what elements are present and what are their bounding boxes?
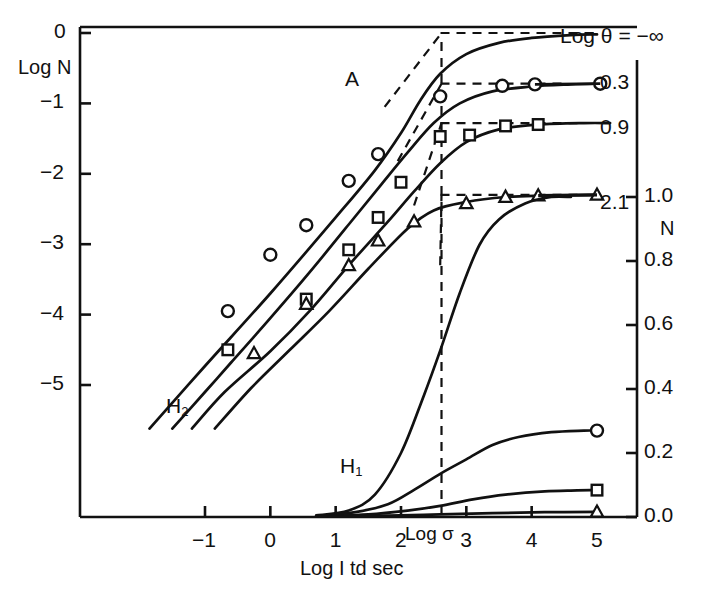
data-point-square-2-4 [396,177,407,188]
left-tick-label-4: −4 [40,302,64,323]
x-tick-label-0: −1 [192,529,216,550]
data-point-square-6-0 [592,485,603,496]
theta-label-2: 0.9 [600,116,629,137]
theta-legend-text: Log θ = −∞ [560,24,664,47]
theta-label-3: 2.1 [600,191,629,212]
curve-label-h2: H2 [166,395,188,418]
x-tick-label-4: 3 [460,529,472,550]
data-point-square-2-8 [533,119,544,130]
connector-03 [535,84,600,85]
curve-label-a: A [345,68,359,89]
data-point-triangle-3-6 [499,191,511,202]
data-point-triangle-7-0 [591,505,603,516]
x-tick-label-2: 1 [330,529,342,550]
curve-label-h1: H1 [340,455,362,478]
left-tick-label-2: −2 [40,161,64,182]
curve-1 [172,84,600,429]
data-point-circle-1-4 [372,148,384,160]
x-tick-label-3: 2 [395,529,407,550]
x-tick-label-6: 5 [591,529,603,550]
data-point-square-2-5 [435,131,446,142]
data-point-circle-1-2 [300,219,312,231]
right-tick-label-4: 0.2 [644,440,673,461]
data-point-triangle-3-0 [248,347,260,358]
data-point-square-2-2 [343,245,354,256]
left-tick-label-1: −1 [40,90,64,111]
data-point-square-2-6 [464,130,475,141]
data-point-triangle-3-5 [460,197,472,208]
dashed-knee-0 [385,33,442,107]
right-tick-label-0: 1.0 [644,184,673,205]
h2-subscript: 2 [181,404,188,419]
left-tick-label-3: −3 [40,231,64,252]
h2-letter: H [166,394,181,417]
theta-label-1: 0.3 [600,71,629,92]
right-tick-label-2: 0.6 [644,312,673,333]
h1-letter: H [340,454,355,477]
x-tick-label-5: 4 [526,529,538,550]
data-point-square-2-7 [500,121,511,132]
left-axis-title: Log N [18,57,71,77]
h1-subscript: 1 [355,464,362,479]
curve-0 [150,34,598,428]
data-point-square-2-3 [373,212,384,223]
theta-legend-infinity: Log θ = −∞ [560,25,664,46]
data-point-square-2-0 [223,345,234,356]
data-point-circle-5-0 [591,425,603,437]
x-axis-title: Log I td sec [300,558,403,578]
left-tick-label-0: 0 [54,20,66,41]
data-point-circle-1-1 [264,249,276,261]
right-tick-label-5: 0.0 [644,504,673,525]
data-point-triangle-3-4 [408,215,420,226]
x-tick-label-1: 0 [264,529,276,550]
data-point-circle-1-0 [222,305,234,317]
connector-21 [538,195,597,196]
sigma-annotation: Log σ [405,524,454,543]
figure-canvas: Log N N Log I td sec Log σ A H2 H1 Log θ… [0,0,712,598]
right-tick-label-1: 0.8 [644,248,673,269]
right-axis-title: N [660,218,674,238]
data-point-circle-1-6 [496,80,508,92]
data-point-circle-1-5 [434,90,446,102]
curve-3 [215,195,597,429]
data-point-circle-1-3 [343,175,355,187]
left-tick-label-5: −5 [40,372,64,393]
right-tick-label-3: 0.4 [644,376,673,397]
